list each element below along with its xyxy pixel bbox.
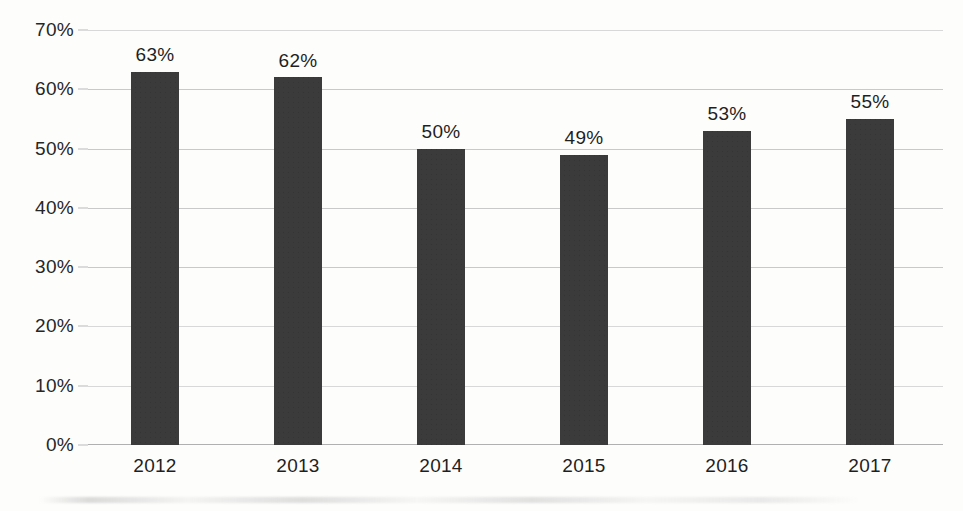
bar-label-2012: 63% (136, 44, 175, 66)
gridline-60 (88, 89, 943, 90)
y-tick-mark-0 (78, 445, 88, 446)
gridline-10 (88, 386, 943, 387)
bar-2014[interactable] (417, 149, 465, 445)
y-tick-mark-70 (78, 30, 88, 31)
bar-2012[interactable] (131, 72, 179, 446)
y-tick-label-30: 30% (12, 256, 74, 278)
bar-2015[interactable] (560, 155, 608, 446)
y-tick-label-20: 20% (12, 315, 74, 337)
bar-2016[interactable] (703, 131, 751, 445)
gridline-70 (88, 30, 943, 31)
x-tick-label-2015: 2015 (562, 455, 605, 477)
gridline-20 (88, 326, 943, 327)
x-tick-label-2014: 2014 (419, 455, 462, 477)
gridline-baseline-0 (88, 444, 943, 445)
y-tick-mark-10 (78, 385, 88, 386)
x-tick-label-2012: 2012 (133, 455, 176, 477)
y-tick-mark-30 (78, 267, 88, 268)
y-tick-label-70: 70% (12, 19, 74, 41)
x-tick-label-2016: 2016 (705, 455, 748, 477)
scan-artifact (40, 497, 860, 503)
bar-2017[interactable] (846, 119, 894, 445)
y-tick-label-0: 0% (12, 434, 74, 456)
bar-label-2017: 55% (851, 91, 890, 113)
bar-label-2013: 62% (279, 50, 318, 72)
y-tick-mark-50 (78, 148, 88, 149)
y-tick-label-50: 50% (12, 138, 74, 160)
gridline-50 (88, 149, 943, 150)
plot-area (88, 30, 943, 445)
y-tick-label-60: 60% (12, 78, 74, 100)
y-tick-label-40: 40% (12, 197, 74, 219)
bar-chart: 70% 60% 50% 40% 30% 20% 10% 0% (0, 0, 963, 511)
bar-label-2016: 53% (708, 103, 747, 125)
bar-label-2015: 49% (565, 127, 604, 149)
y-tick-mark-60 (78, 89, 88, 90)
y-tick-mark-40 (78, 207, 88, 208)
gridline-40 (88, 208, 943, 209)
x-tick-label-2013: 2013 (276, 455, 319, 477)
gridline-30 (88, 267, 943, 268)
bar-2013[interactable] (274, 77, 322, 445)
y-tick-label-10: 10% (12, 375, 74, 397)
x-tick-label-2017: 2017 (848, 455, 891, 477)
bar-label-2014: 50% (422, 121, 461, 143)
y-tick-mark-20 (78, 326, 88, 327)
